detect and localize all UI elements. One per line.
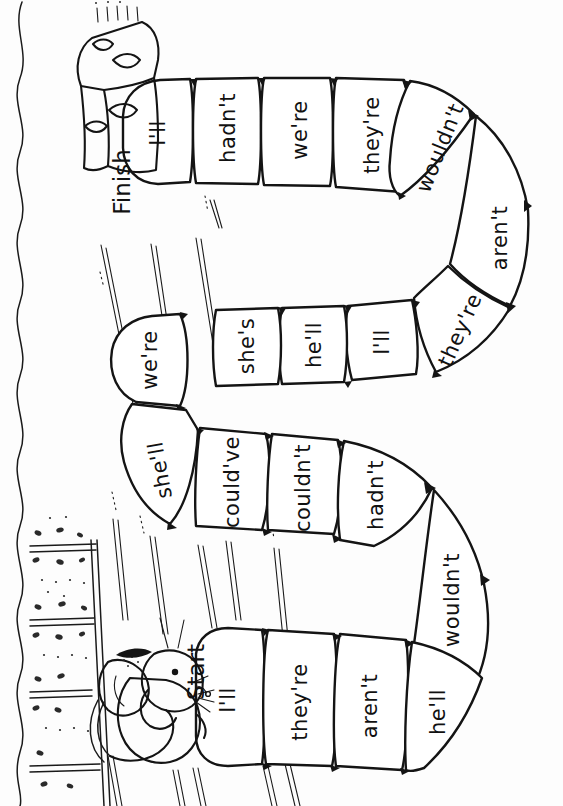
board-space-group-row4	[196, 628, 482, 775]
board-space-group-row2	[111, 300, 420, 412]
board-space-group-row3	[121, 404, 436, 546]
board-space-group-row1	[123, 78, 479, 200]
gravel-ground-icon	[30, 516, 110, 806]
worksheet-page: .ln{fill:none;stroke:#141414;stroke-widt…	[0, 0, 563, 806]
board-game-canvas: .ln{fill:none;stroke:#141414;stroke-widt…	[0, 0, 563, 806]
board-artwork: .ln{fill:none;stroke:#141414;stroke-widt…	[0, 0, 563, 806]
start-marker-label: Start	[183, 644, 209, 700]
wavy-border-icon	[17, 2, 23, 806]
finish-marker-label: Finish	[109, 149, 135, 214]
